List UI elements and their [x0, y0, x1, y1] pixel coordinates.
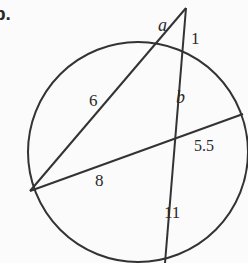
- label-11: 11: [164, 203, 180, 222]
- label-b: b: [176, 87, 185, 107]
- circle-secants-diagram: b. a 1 6 b 5.5 8 11: [0, 0, 248, 263]
- label-a: a: [158, 15, 167, 35]
- label-5-5: 5.5: [194, 137, 214, 154]
- label-6: 6: [89, 91, 98, 110]
- part-label: b.: [0, 3, 11, 24]
- label-1: 1: [191, 29, 200, 48]
- label-8: 8: [95, 171, 104, 190]
